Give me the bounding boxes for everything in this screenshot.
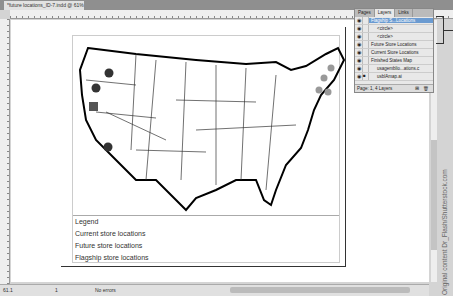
layers-panel: Pages Layers Links ◉Flagship S...Locatio… <box>354 8 434 93</box>
eye-icon[interactable]: ◉ <box>355 33 363 40</box>
current-store-marker <box>92 84 101 93</box>
layer-row[interactable]: ◉usagemblio...ations.c <box>355 65 433 73</box>
layer-row[interactable]: ◉<circle> <box>355 33 433 41</box>
new-layer-icon[interactable]: ⊞ <box>415 85 419 93</box>
future-store-marker <box>325 89 332 96</box>
preflight-status[interactable]: No errors <box>95 285 116 296</box>
legend-title: Legend <box>73 216 339 228</box>
panel-footer: Page: 1, 4 Layers⊞🗑 <box>355 84 433 92</box>
future-store-marker <box>321 75 328 82</box>
horizontal-scrollbar[interactable] <box>230 287 410 293</box>
layer-row[interactable]: ◉■usblAmap.ai <box>355 73 433 81</box>
credit-text: Original content Dr_Flash/Shutterstock.c… <box>441 169 448 295</box>
callout-line <box>444 30 453 31</box>
legend-item: Current store locations <box>73 228 339 240</box>
eye-icon[interactable]: ◉ <box>355 57 363 64</box>
layer-row[interactable]: ◉Finished States Map <box>355 57 433 65</box>
document-tab-label: *future locations_ID-7.indd @ 61% <box>7 2 84 8</box>
eye-icon[interactable]: ◉ <box>355 41 363 48</box>
layer-row[interactable]: ◉<circle> <box>355 25 433 33</box>
eye-icon[interactable]: ◉ <box>355 65 363 72</box>
future-store-marker <box>328 65 335 72</box>
document-tab[interactable]: *future locations_ID-7.indd @ 61% × <box>4 1 84 10</box>
vertical-ruler <box>0 19 10 284</box>
eye-icon[interactable]: ◉ <box>355 73 363 80</box>
eye-icon[interactable]: ◉ <box>355 49 363 56</box>
legend: Legend Current store locations Future st… <box>73 215 339 264</box>
page-number[interactable]: 1 <box>55 285 58 296</box>
vertical-scroll-thumb[interactable] <box>431 140 437 250</box>
us-map <box>76 40 346 215</box>
legend-item: Flagship store locations <box>73 252 339 264</box>
zoom-level[interactable]: 61.1 <box>3 285 13 296</box>
eye-icon[interactable]: ◉ <box>355 17 363 24</box>
layer-row[interactable]: ◉Current Store Locations <box>355 49 433 57</box>
callout-bracket <box>436 16 444 44</box>
eye-icon[interactable]: ◉ <box>355 25 363 32</box>
current-store-marker <box>105 69 114 78</box>
tab-layers[interactable]: Layers <box>375 9 396 17</box>
trash-icon[interactable]: 🗑 <box>423 85 429 93</box>
legend-item: Future store locations <box>73 240 339 252</box>
current-store-marker <box>104 143 113 152</box>
tab-links[interactable]: Links <box>395 9 413 17</box>
layer-row[interactable]: ◉Flagship S...Locations <box>355 17 433 25</box>
layer-row[interactable]: ◉Future Store Locations <box>355 41 433 49</box>
tab-pages[interactable]: Pages <box>355 9 375 17</box>
future-store-marker <box>316 87 323 94</box>
flagship-store-marker <box>89 102 98 111</box>
